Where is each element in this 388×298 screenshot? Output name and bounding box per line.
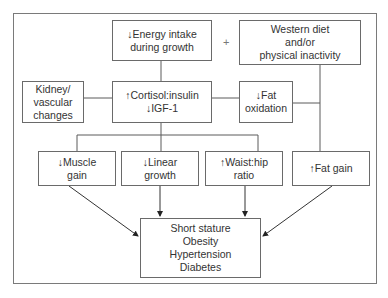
- kidney-vascular-node: Kidney/ vascular changes: [22, 81, 84, 123]
- fat-gain-node: ↑Fat gain: [292, 151, 370, 186]
- linear-growth-node: ↓Linear growth: [121, 151, 199, 186]
- muscle-gain-node: ↓Muscle gain: [38, 151, 116, 186]
- outcomes-node: Short stature Obesity Hypertension Diabe…: [140, 218, 261, 278]
- fat-oxidation-label: ↓Fat oxidation: [245, 89, 287, 115]
- waist-hip-label: ↑Waist:hip ratio: [220, 156, 268, 182]
- plus-operator: +: [223, 36, 229, 48]
- linear-growth-label: ↓Linear growth: [143, 156, 177, 182]
- muscle-gain-label: ↓Muscle gain: [58, 156, 97, 182]
- fat-oxidation-node: ↓Fat oxidation: [239, 81, 293, 123]
- energy-intake-node: ↓Energy intake during growth: [112, 20, 212, 61]
- kidney-vascular-label: Kidney/ vascular changes: [33, 83, 73, 122]
- western-diet-node: Western diet and/or physical inactivity: [239, 20, 361, 65]
- outcomes-label: Short stature Obesity Hypertension Diabe…: [170, 222, 232, 274]
- cortisol-insulin-node: ↑Cortisol:insulin ↓IGF-1: [112, 81, 212, 123]
- fat-gain-label: ↑Fat gain: [309, 162, 352, 175]
- waist-hip-node: ↑Waist:hip ratio: [205, 151, 283, 186]
- cortisol-insulin-label: ↑Cortisol:insulin ↓IGF-1: [125, 89, 199, 115]
- western-diet-label: Western diet and/or physical inactivity: [259, 23, 340, 62]
- energy-intake-label: ↓Energy intake during growth: [127, 28, 196, 54]
